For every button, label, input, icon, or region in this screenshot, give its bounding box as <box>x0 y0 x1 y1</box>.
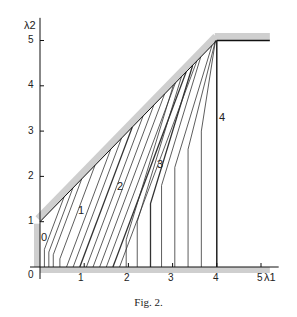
y-tick-2: 2 <box>28 171 34 181</box>
diagonal-band <box>38 37 216 219</box>
contour-line <box>126 85 173 267</box>
y-tick-3: 3 <box>28 126 34 136</box>
contour-line <box>175 45 212 267</box>
y-tick-1: 1 <box>28 216 34 226</box>
contour-lines <box>44 41 216 268</box>
region-label-3: 3 <box>157 159 163 170</box>
figure-caption: Fig. 2. <box>0 296 297 308</box>
boundary-shading <box>37 37 270 271</box>
x-tick-3: 3 <box>168 273 174 283</box>
region-label-0: 0 <box>41 232 47 243</box>
figure-plot <box>0 0 297 317</box>
region-label-1: 1 <box>78 205 84 216</box>
region-label-4: 4 <box>219 112 225 123</box>
origin-label: 0 <box>28 270 34 280</box>
diagonal-boundary <box>40 41 217 222</box>
x-tick-2: 2 <box>124 273 130 283</box>
y-tick-5: 5 <box>28 35 34 45</box>
y-tick-4: 4 <box>28 80 34 90</box>
y-axis-label: λ2 <box>24 20 36 31</box>
x-tick-5: 5 <box>257 273 263 283</box>
x-axis-label: λ1 <box>264 272 276 283</box>
x-tick-4: 4 <box>213 273 219 283</box>
region-label-2: 2 <box>117 181 123 192</box>
x-tick-1: 1 <box>78 273 84 283</box>
